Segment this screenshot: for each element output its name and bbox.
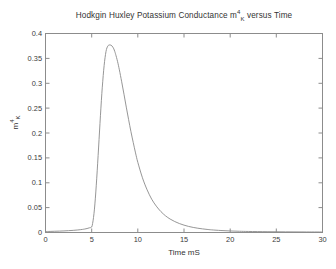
- x-tick-label: 15: [172, 235, 196, 244]
- series-line-mk4: [46, 45, 323, 232]
- y-tick-label: 0.35: [12, 54, 42, 63]
- y-tick-label: 0.3: [12, 79, 42, 88]
- y-tick-label: 0.15: [12, 153, 42, 162]
- x-tick-label: 5: [80, 235, 104, 244]
- x-tick-label: 30: [311, 235, 335, 244]
- y-axis-ticks-right: [319, 58, 323, 207]
- x-axis-ticks-top: [92, 34, 277, 38]
- matlab-figure-canvas: Hodkgin Huxley Potassium Conductance m4K…: [0, 0, 336, 269]
- y-tick-label: 0.05: [12, 203, 42, 212]
- y-axis-label: m4K: [11, 110, 20, 136]
- x-axis-label: Time mS: [45, 248, 323, 257]
- axes-frame: [46, 34, 323, 233]
- y-tick-label: 0.1: [12, 178, 42, 187]
- y-tick-label: 0.4: [12, 29, 42, 38]
- y-axis-ticks: [46, 34, 50, 233]
- plot-area: [0, 0, 336, 269]
- y-axis-label-subscript: K: [15, 115, 21, 119]
- y-axis-label-superscript: 4: [9, 120, 15, 123]
- x-tick-label: 10: [126, 235, 150, 244]
- y-axis-label-base: m: [11, 123, 20, 130]
- x-tick-label: 0: [34, 235, 58, 244]
- x-tick-label: 25: [264, 235, 288, 244]
- x-tick-label: 20: [218, 235, 242, 244]
